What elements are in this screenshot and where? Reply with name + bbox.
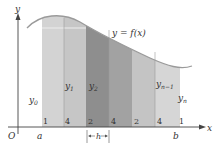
weight-6: 1 (179, 117, 184, 126)
weight-1: 4 (65, 117, 70, 126)
strip-5 (132, 0, 155, 127)
endpoint-b: b (173, 131, 179, 141)
weight-0: 1 (43, 117, 48, 126)
origin-label: O (8, 131, 16, 141)
y-axis-arrow-icon (16, 13, 21, 20)
strip-1 (42, 0, 64, 127)
weight-5: 4 (157, 117, 162, 126)
strip-4 (109, 0, 132, 127)
ordinate-y0: y0 (28, 95, 38, 106)
step-h-marker: h (87, 130, 109, 143)
arrow-left-icon (88, 135, 91, 138)
y-axis-label: y (14, 4, 21, 14)
x-axis-label: x (207, 123, 212, 133)
weight-3: 4 (111, 117, 116, 126)
ordinate-yn: yn (177, 93, 187, 104)
strip-6 (155, 0, 180, 127)
step-h-label: h (96, 132, 101, 141)
weight-2: 2 (88, 117, 93, 126)
x-axis-arrow-icon (199, 125, 206, 130)
strip-3 (86, 0, 109, 127)
curve-label: y = f(x) (111, 28, 146, 38)
arrow-right-icon (105, 135, 108, 138)
endpoint-a: a (37, 131, 42, 141)
simpsons-rule-diagram: y x O a b y = f(x) y0 y1 y2 yn−1 yn 1 4 … (0, 0, 216, 151)
weight-4: 2 (134, 117, 139, 126)
strips (42, 0, 180, 127)
